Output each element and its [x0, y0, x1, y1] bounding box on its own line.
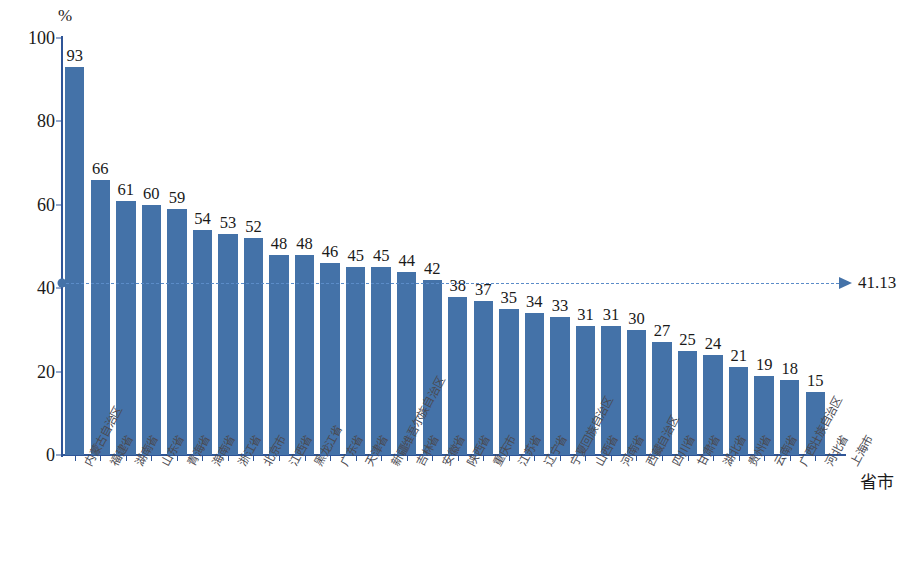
bar-slot[interactable]: 34: [522, 38, 548, 455]
bar[interactable]: [65, 67, 84, 455]
bar-slot[interactable]: 61: [113, 38, 139, 455]
y-axis-tick-label: 60: [37, 194, 55, 215]
bar-slot[interactable]: 45: [343, 38, 369, 455]
bar-value-label: 15: [807, 371, 824, 391]
bar[interactable]: [499, 309, 518, 455]
bar-value-label: 35: [501, 288, 518, 308]
y-axis-tick-label: 0: [46, 445, 55, 466]
bar[interactable]: [346, 267, 365, 455]
bar[interactable]: [423, 280, 442, 455]
bar-slot[interactable]: 33: [547, 38, 573, 455]
bar-slot[interactable]: 45: [368, 38, 394, 455]
bar-slot[interactable]: 30: [624, 38, 650, 455]
bar-slot[interactable]: 37: [471, 38, 497, 455]
bar[interactable]: [269, 255, 288, 455]
bar[interactable]: [474, 301, 493, 455]
bar-slot[interactable]: 59: [164, 38, 190, 455]
bar-value-label: 52: [245, 217, 262, 237]
y-axis-tick-label: 80: [37, 111, 55, 132]
bar[interactable]: [295, 255, 314, 455]
bar-value-label: 18: [781, 359, 798, 379]
bar[interactable]: [193, 230, 212, 455]
bar-value-label: 46: [322, 242, 339, 262]
bar-slot[interactable]: 60: [139, 38, 165, 455]
bar-slot[interactable]: 48: [292, 38, 318, 455]
bar-value-label: 48: [296, 234, 313, 254]
bar[interactable]: [218, 234, 237, 455]
plot-area: 020406080100 936661605954535248484645454…: [62, 38, 828, 455]
bar-value-label: 33: [552, 296, 569, 316]
bar-slot[interactable]: 24: [700, 38, 726, 455]
bar-slot[interactable]: 44: [394, 38, 420, 455]
bar-slot[interactable]: 52: [241, 38, 267, 455]
bar-value-label: 24: [705, 334, 722, 354]
bar-value-label: 31: [603, 305, 620, 325]
bar-slot[interactable]: 27: [649, 38, 675, 455]
bar-value-label: 19: [756, 355, 773, 375]
y-axis-unit-label: %: [58, 6, 73, 26]
reference-line: [66, 283, 839, 284]
bar-value-label: 30: [628, 309, 645, 329]
bar[interactable]: [244, 238, 263, 455]
x-axis-category-label: 上海市: [846, 432, 876, 469]
x-axis-title: 省市: [860, 468, 894, 493]
bar-slot[interactable]: 38: [445, 38, 471, 455]
bar-slot[interactable]: 46: [317, 38, 343, 455]
bar-value-label: 45: [373, 246, 390, 266]
bar-value-label: 66: [92, 159, 109, 179]
bar-slot[interactable]: 35: [496, 38, 522, 455]
bar-value-label: 25: [679, 330, 696, 350]
reference-line-arrow-icon: [839, 277, 852, 289]
bar-value-label: 31: [577, 305, 594, 325]
bar-slot[interactable]: 15: [802, 38, 828, 455]
bar-value-label: 45: [347, 246, 364, 266]
bar-chart: % 020406080100 9366616059545352484846454…: [0, 0, 906, 573]
bar-slot[interactable]: 48: [266, 38, 292, 455]
bar[interactable]: [448, 297, 467, 455]
reference-line-value-label: 41.13: [858, 273, 896, 293]
bar-slot[interactable]: 93: [62, 38, 88, 455]
bar-value-label: 34: [526, 292, 543, 312]
bar-slot[interactable]: 18: [777, 38, 803, 455]
bar-slot[interactable]: 66: [88, 38, 114, 455]
bar-slot[interactable]: 21: [726, 38, 752, 455]
bar[interactable]: [142, 205, 161, 455]
bar-series: 9366616059545352484846454544423837353433…: [62, 38, 828, 455]
bar-value-label: 48: [271, 234, 288, 254]
x-axis-tick-mark: [75, 455, 76, 461]
bar[interactable]: [167, 209, 186, 455]
bar-value-label: 27: [654, 321, 671, 341]
bar[interactable]: [371, 267, 390, 455]
bar-slot[interactable]: 19: [751, 38, 777, 455]
bar-value-label: 60: [143, 184, 160, 204]
bar-value-label: 42: [424, 259, 441, 279]
bar-slot[interactable]: 53: [215, 38, 241, 455]
bar-slot[interactable]: 31: [573, 38, 599, 455]
bar-value-label: 21: [730, 346, 747, 366]
bar-slot[interactable]: 54: [190, 38, 216, 455]
y-axis-tick-label: 100: [28, 28, 55, 49]
bar-value-label: 59: [169, 188, 186, 208]
bar-value-label: 93: [67, 46, 84, 66]
y-axis-tick-label: 20: [37, 361, 55, 382]
bar-value-label: 38: [450, 276, 467, 296]
bar-slot[interactable]: 25: [675, 38, 701, 455]
y-axis-tick-label: 40: [37, 278, 55, 299]
bar-value-label: 61: [118, 180, 135, 200]
bar-value-label: 54: [194, 209, 211, 229]
bar-value-label: 44: [398, 251, 415, 271]
bar-value-label: 53: [220, 213, 237, 233]
